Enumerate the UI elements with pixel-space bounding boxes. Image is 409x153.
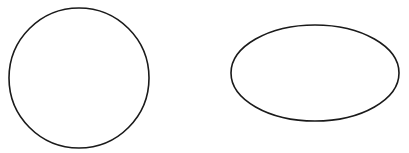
circle-shape	[9, 8, 149, 148]
diagram-canvas	[0, 0, 409, 153]
ellipse-shape	[231, 25, 399, 121]
